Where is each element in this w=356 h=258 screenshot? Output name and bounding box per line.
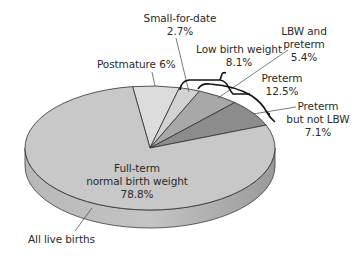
label-lbw-and-preterm-line2: preterm (272, 38, 336, 51)
label-preterm-not-lbw-value: 7.1% (280, 126, 356, 139)
label-preterm-not-lbw-line1: Preterm (280, 100, 356, 113)
label-full-term-value: 78.8% (82, 188, 192, 201)
label-preterm-not-lbw: Preterm but not LBW 7.1% (280, 100, 356, 139)
label-small-for-date-text: Small-for-date (140, 12, 220, 25)
label-full-term-line2: normal birth weight (82, 175, 192, 188)
label-lbw-and-preterm-value: 5.4% (272, 51, 336, 64)
label-full-term-line1: Full-term (82, 162, 192, 175)
label-all-live-births-text: All live births (28, 233, 95, 246)
label-postmature: Postmature 6% (97, 58, 176, 71)
label-full-term: Full-term normal birth weight 78.8% (82, 162, 192, 201)
label-preterm-text: Preterm (252, 72, 312, 85)
label-all-live-births: All live births (28, 233, 95, 246)
label-lbw-and-preterm-line1: LBW and (272, 25, 336, 38)
label-preterm: Preterm 12.5% (252, 72, 312, 98)
label-lbw-and-preterm: LBW and preterm 5.4% (272, 25, 336, 64)
label-small-for-date-value: 2.7% (140, 25, 220, 38)
label-small-for-date: Small-for-date 2.7% (140, 12, 220, 38)
label-preterm-value: 12.5% (252, 85, 312, 98)
label-preterm-not-lbw-line2: but not LBW (280, 113, 356, 126)
label-postmature-text: Postmature 6% (97, 58, 176, 71)
leader-postmature (152, 72, 155, 86)
